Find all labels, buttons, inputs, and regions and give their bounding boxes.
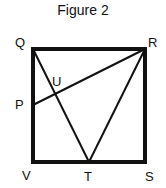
label-v: V [22, 168, 31, 183]
segment-qt [33, 49, 89, 162]
segment-rt [89, 49, 145, 162]
square-qrsv [33, 49, 145, 162]
label-u: U [52, 74, 61, 89]
label-s: S [145, 169, 154, 184]
label-q: Q [15, 35, 25, 50]
label-t: T [84, 169, 92, 184]
label-r: R [148, 35, 157, 50]
geometry-figure: Q R U P V T S [0, 0, 166, 188]
segment-pr [33, 49, 145, 105]
label-p: P [15, 97, 24, 112]
